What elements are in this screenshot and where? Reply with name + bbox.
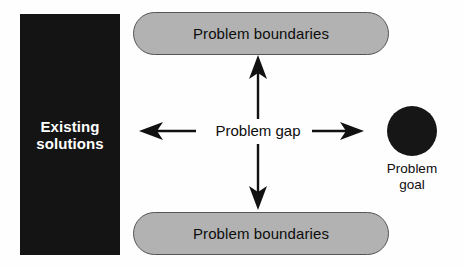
arrow-right-icon [312, 122, 364, 140]
problem-goal-circle [387, 106, 437, 156]
arrow-up-icon [249, 55, 267, 119]
problem-boundaries-top: Problem boundaries [133, 12, 389, 55]
existing-solutions-block: Existing solutions [20, 14, 120, 255]
problem-gap-label: Problem gap [198, 122, 318, 139]
problem-goal-label-line2: goal [399, 177, 425, 192]
problem-boundaries-top-label: Problem boundaries [193, 25, 329, 42]
existing-solutions-label: Existing solutions [36, 118, 104, 152]
problem-boundaries-bottom-label: Problem boundaries [193, 225, 329, 242]
existing-solutions-label-line2: solutions [36, 135, 104, 152]
arrow-down-icon [249, 144, 267, 210]
arrow-left-icon [139, 122, 196, 140]
problem-boundaries-bottom: Problem boundaries [133, 212, 389, 255]
problem-goal-label: Problem goal [372, 161, 452, 192]
diagram-canvas: Existing solutions Problem boundaries Pr… [0, 0, 464, 267]
existing-solutions-label-line1: Existing [40, 118, 99, 135]
problem-goal-label-line1: Problem [387, 161, 437, 176]
